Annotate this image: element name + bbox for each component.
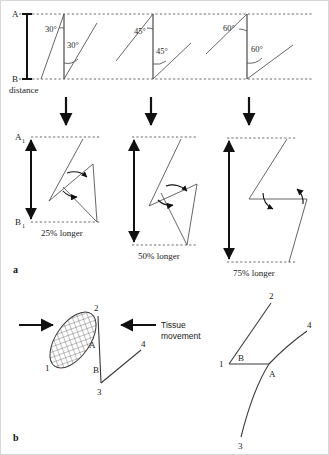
lower-limb-30 [64,23,97,79]
angle-arc-top-60 [239,29,247,31]
angle-arc-bottom-60 [247,58,262,63]
transition-arrows [66,97,249,125]
result-label-25: 25% longer [41,228,83,238]
angle-label-45-bottom: 45° [156,46,168,56]
label-distance: distance [9,85,39,95]
panel-b-after: 2 1 3 4 B A [219,291,312,451]
result-25-limb-cross2 [63,187,97,222]
result-50-percent: 50% longer [132,137,197,261]
angle-label-60-bottom: 60° [251,44,263,54]
label-point-b: B [12,74,18,84]
result-label-50: 50% longer [138,251,180,261]
label-point-b1: B [15,217,21,227]
after-limb-a-4 [269,331,307,364]
result-50-limb-cross1 [149,184,197,206]
panel-label-a: a [13,264,18,275]
result-75-percent: 75% longer [227,138,307,278]
result-25-percent: A 1 B 1 25% longer [15,132,101,238]
result-50-limb-lower [187,184,197,245]
result-50-limb-upper [149,139,181,206]
angle-label-30-top: 30° [45,24,57,34]
after-point-2: 2 [269,291,274,301]
result-25-limb-upper [49,139,83,201]
result-75-limb-lower [289,199,307,262]
result-25-rotation-arrow-1 [67,172,87,177]
result-50-limb-cross2 [161,193,187,245]
result-25-limb-lower [93,164,97,222]
before-point-3: 3 [97,387,102,397]
before-flap-b: B [93,365,99,375]
after-flap-b: B [238,353,244,363]
result-75-rotation-arrow-1 [263,193,273,209]
label-point-b1-subscript: 1 [22,223,25,229]
upper-limb-60 [206,14,247,54]
after-point-4: 4 [307,320,312,330]
tissue-movement-line2: movement [161,331,201,341]
after-limb-a-3 [241,364,269,437]
result-label-75: 75% longer [233,268,275,278]
column-60-degrees-before [206,14,293,79]
panel-b-before: 1 2 3 4 A B Tissue movement [19,303,201,397]
after-flap-a: A [269,369,276,379]
after-limb-1-2 [229,303,271,364]
result-75-limb-upper [249,139,287,199]
result-75-rotation-arrow-2 [297,189,303,204]
angle-label-60-top: 60° [223,23,235,33]
label-point-a1: A [15,132,22,142]
before-point-1: 1 [45,363,50,373]
zplasty-figure: A B distance 30° 30° 45° 45° 60° 60° [0,0,329,455]
column-45-degrees-before [116,14,191,79]
angle-label-45-top: 45° [134,26,146,36]
angle-label-30-bottom: 30° [67,40,79,50]
angle-arc-bottom-45 [153,61,166,64]
after-point-1: 1 [219,359,224,369]
label-point-a1-subscript: 1 [22,138,25,144]
before-limb-b [101,350,141,383]
before-point-2: 2 [94,303,99,313]
panel-label-b: b [13,432,19,443]
panel-b: 1 2 3 4 A B Tissue movement 2 1 3 4 B [13,291,312,451]
before-point-4: 4 [141,339,146,349]
figure-canvas: A B distance 30° 30° 45° 45° 60° 60° [1,1,329,455]
upper-limb-45 [116,14,153,61]
panel-a-top-row: A B distance 30° 30° 45° 45° 60° 60° [9,9,313,95]
after-point-3: 3 [238,441,243,451]
label-point-a: A [12,9,19,19]
before-flap-a: A [89,340,96,350]
tissue-movement-line1: Tissue [161,320,186,330]
angle-arc-top-45 [147,28,153,29]
